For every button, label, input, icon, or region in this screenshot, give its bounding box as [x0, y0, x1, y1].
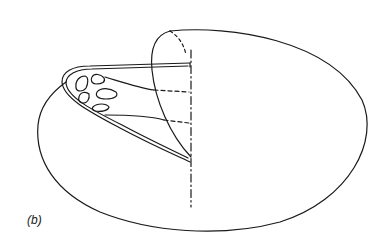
ellipsoid-diagram: [0, 0, 389, 246]
body-2: [91, 74, 104, 84]
body-1: [76, 76, 88, 91]
body-3: [79, 92, 90, 103]
fiber-line-upper: [105, 77, 154, 90]
body-4: [96, 89, 116, 99]
wedge-outer-wall: [62, 63, 190, 162]
panel-label: (b): [27, 213, 42, 227]
wedge-inner-wall: [66, 66, 188, 158]
fiber-hidden-upper: [154, 90, 189, 92]
fiber-line-lower: [105, 115, 164, 120]
section-flap-hidden-edge: [170, 31, 186, 55]
outer-ellipsoid-outline: [38, 30, 367, 231]
